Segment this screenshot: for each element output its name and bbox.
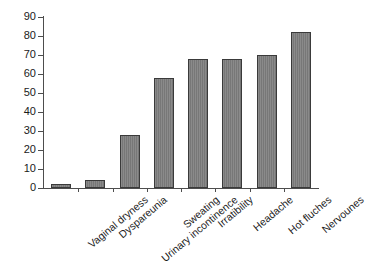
y-axis-tick [38,169,43,170]
y-axis-tick [38,131,43,132]
bar-slot [78,17,112,188]
bar [222,59,242,188]
bar [120,135,140,188]
y-axis-tick-label: 20 [24,144,36,155]
x-axis-tick [181,188,182,192]
bar-slot [284,17,318,188]
y-axis-tick-label: 70 [24,49,36,60]
bar-slot [215,17,249,188]
y-axis-tick [38,188,43,189]
x-axis-tick [113,188,114,192]
y-axis-tick [38,74,43,75]
y-axis-tick [38,55,43,56]
bar [188,59,208,188]
y-axis-tick-label: 10 [24,163,36,174]
bar [291,32,311,188]
y-axis-tick [38,150,43,151]
x-axis-tick [284,188,285,192]
y-axis-tick-label: 40 [24,106,36,117]
y-axis-tick [38,93,43,94]
y-axis-tick-label: 50 [24,87,36,98]
y-axis-tick-label: 90 [24,11,36,22]
bar [51,184,71,188]
bar [257,55,277,188]
plot-area [44,17,318,188]
y-axis-tick-label: 30 [24,125,36,136]
x-axis-tick [215,188,216,192]
bar-slot [181,17,215,188]
y-axis-tick-label: 80 [24,30,36,41]
y-axis-tick [38,112,43,113]
x-axis-tick [147,188,148,192]
y-axis-tick [38,36,43,37]
y-axis-tick-label: 0 [30,182,36,193]
bar-slot [147,17,181,188]
x-axis-tick [250,188,251,192]
bar-slot [44,17,78,188]
y-axis-tick [38,17,43,18]
bar [154,78,174,188]
y-axis-tick-label: 60 [24,68,36,79]
bar-slot [113,17,147,188]
bar-slot [250,17,284,188]
x-axis-tick [78,188,79,192]
bar [85,180,105,188]
